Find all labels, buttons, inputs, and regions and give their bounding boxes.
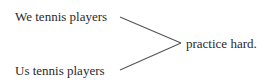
subject-us: Us tennis players [15,64,105,77]
connector-upper [120,17,181,43]
connector-lower [120,43,181,70]
predicate: practice hard. [186,37,257,50]
subject-we: We tennis players [15,10,107,23]
